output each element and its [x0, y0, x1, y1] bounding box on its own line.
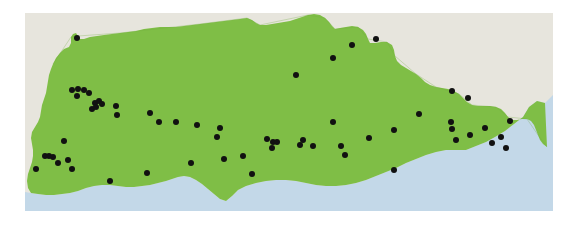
- map-canvas: [0, 0, 565, 226]
- distribution-map-figure: Andalusia: [0, 0, 565, 226]
